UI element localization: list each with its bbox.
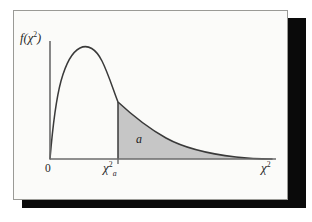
critical-value-exponent: 2 (109, 160, 113, 169)
chart-panel: f(χ2) 0 χ2a χ2 a (13, 10, 288, 200)
y-axis-label: f(χ2) (20, 31, 41, 45)
figure-container: f(χ2) 0 χ2a χ2 a (0, 0, 312, 222)
origin-tick-label: 0 (45, 163, 51, 175)
y-axis-label-f: f( (20, 31, 28, 45)
critical-value-label: χ2a (103, 161, 117, 178)
x-axis-label: χ2 (261, 161, 271, 174)
chi-square-plot (14, 11, 289, 201)
y-axis-label-close: ) (37, 31, 41, 45)
critical-value-subscript: a (113, 169, 117, 178)
tail-area-label: a (136, 133, 142, 145)
shaded-tail-area (118, 102, 272, 159)
x-axis-label-exponent: 2 (267, 160, 271, 169)
